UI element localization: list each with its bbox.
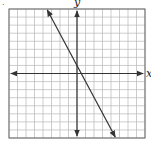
coordinate-plane: [0, 0, 151, 141]
